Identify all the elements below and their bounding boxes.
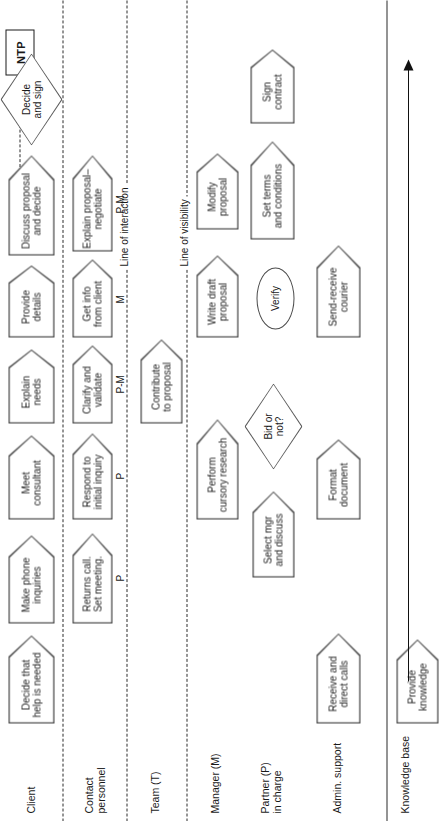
node-label: Perform cursory research (196, 419, 238, 519)
lane-label-knowledge-base: Knowledge base (398, 735, 410, 813)
lane-label-contact-personnel: Contact personnel (82, 767, 106, 813)
arrow-head-icon (403, 59, 413, 70)
node-write-draft-proposal[interactable]: Write draft proposal (196, 255, 238, 337)
node-decide-that-help-is-needed[interactable]: Decide that help is needed (8, 635, 54, 723)
node-respond-to-initial-inquiry[interactable]: Respond to initial inquiry (72, 433, 112, 519)
node-label: Meet consultant (8, 435, 54, 519)
node-returns-call-set-meeting[interactable]: Returns call. Set meeting. (72, 533, 112, 623)
role-annotation-clarify-and-validate: P-M (114, 375, 125, 393)
node-label: Set terms and conditions (250, 141, 294, 239)
node-decide-and-sign[interactable]: Decide and sign (0, 53, 62, 145)
node-sign-contract[interactable]: Sign contract (250, 49, 294, 123)
node-label: Returns call. Set meeting. (72, 533, 112, 623)
knowledge-base-arrow (398, 59, 418, 681)
lane-label-admin-support: Admin. support (330, 742, 342, 813)
role-annotation-returns-call: P (114, 574, 125, 581)
role-annotation-respond-to-initial-inquiry: P (114, 472, 125, 479)
node-discuss-proposal-and-decide[interactable]: Discuss proposal and decide (8, 155, 54, 255)
node-contribute-to-proposal[interactable]: Contribute to proposal (140, 339, 182, 423)
node-label: Format document (316, 439, 360, 519)
node-label: Get info from client (72, 259, 112, 337)
node-label: Decide and sign (0, 53, 62, 145)
node-label: Sign contract (250, 49, 294, 123)
node-verify[interactable]: Verify (256, 267, 294, 329)
role-annotation-explain-proposal-negotiate: P-M (114, 195, 125, 213)
node-label: Bid or not? (244, 383, 302, 469)
node-provide-details[interactable]: Provide details (8, 265, 54, 337)
node-label: Clarify and validate (72, 345, 112, 423)
line-of-visibility-divider (186, 0, 187, 821)
node-label: Explain needs (8, 349, 54, 423)
node-label: Modify proposal (196, 153, 238, 229)
node-label: Send-receive courier (316, 245, 360, 337)
node-make-phone-inquiries[interactable]: Make phone inquiries (8, 535, 54, 623)
node-label: Receive and direct calls (316, 633, 360, 723)
node-label: Contribute to proposal (140, 339, 182, 423)
node-label: Discuss proposal and decide (8, 155, 54, 255)
node-explain-proposal-negotiate[interactable]: Explain proposal– negotiate (72, 155, 112, 251)
service-blueprint-canvas: Line of interaction Line of visibility N… (0, 0, 445, 821)
node-format-document[interactable]: Format document (316, 439, 360, 519)
node-explain-needs[interactable]: Explain needs (8, 349, 54, 423)
lane-label-team: Team (T) (148, 771, 160, 813)
node-send-receive-courier[interactable]: Send-receive courier (316, 245, 360, 337)
lane-label-partner: Partner (P) in charge (258, 762, 282, 813)
node-label: Explain proposal– negotiate (72, 155, 112, 251)
lane-label-manager: Manager (M) (208, 753, 220, 813)
node-label: Write draft proposal (196, 255, 238, 337)
node-label: Provide details (8, 265, 54, 337)
line-of-visibility-label: Line of visibility (178, 196, 189, 269)
divider-knowledge-base (386, 0, 387, 821)
node-receive-and-direct-calls[interactable]: Receive and direct calls (316, 633, 360, 723)
node-set-terms-and-conditions[interactable]: Set terms and conditions (250, 141, 294, 239)
node-clarify-and-validate[interactable]: Clarify and validate (72, 345, 112, 423)
node-get-info-from-client[interactable]: Get info from client (72, 259, 112, 337)
node-label: Respond to initial inquiry (72, 433, 112, 519)
node-modify-proposal[interactable]: Modify proposal (196, 153, 238, 229)
node-perform-cursory-research[interactable]: Perform cursory research (196, 419, 238, 519)
node-bid-or-not[interactable]: Bid or not? (244, 383, 302, 469)
node-label: Select mgr and discuss (252, 491, 294, 577)
node-meet-consultant[interactable]: Meet consultant (8, 435, 54, 519)
node-label: Decide that help is needed (8, 635, 54, 723)
node-select-mgr-and-discuss[interactable]: Select mgr and discuss (252, 491, 294, 577)
arrow-shaft (408, 69, 409, 681)
node-label: Make phone inquiries (8, 535, 54, 623)
lane-label-client: Client (24, 786, 36, 813)
role-annotation-get-info-from-client: M (114, 295, 125, 303)
line-of-interaction-divider (126, 0, 127, 821)
